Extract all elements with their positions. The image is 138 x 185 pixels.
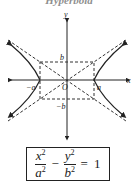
minus-sign: − [51,156,58,172]
exponent: 2 [71,148,75,157]
vertex-label-left: −a [26,83,35,92]
origin-label: O [62,83,68,92]
vertex-label-right: a [97,83,101,92]
exponent: 2 [42,165,46,174]
hyperbola-graph: y x O −a a b −b [0,0,138,145]
exponent: 2 [41,148,45,157]
co-vertex-label-bottom: −b [56,102,65,111]
rhs-value: 1 [94,156,101,172]
exponent: 2 [71,165,75,174]
fraction-y-over-b: y2 b2 [64,149,76,179]
x-axis-label: x [126,76,131,85]
fraction-x-over-a: x2 a2 [35,149,47,179]
hyperbola-equation: x2 a2 − y2 b2 = 1 [26,147,110,181]
y-axis-label: y [63,10,68,19]
equals-sign: = [81,156,88,172]
co-vertex-label-top: b [60,53,64,62]
